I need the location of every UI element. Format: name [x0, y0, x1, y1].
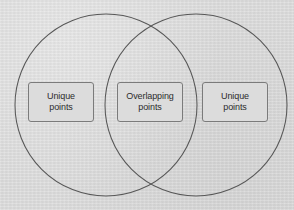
venn-diagram: Unique points Overlapping points Unique … [0, 0, 294, 210]
label-box-overlapping: Overlapping points [117, 82, 183, 122]
label-box-left-unique: Unique points [28, 82, 94, 122]
label-text-overlapping: Overlapping points [124, 91, 175, 112]
label-box-right-unique: Unique points [202, 82, 268, 122]
label-text-right-unique: Unique points [219, 91, 251, 112]
label-text-left-unique: Unique points [45, 91, 77, 112]
